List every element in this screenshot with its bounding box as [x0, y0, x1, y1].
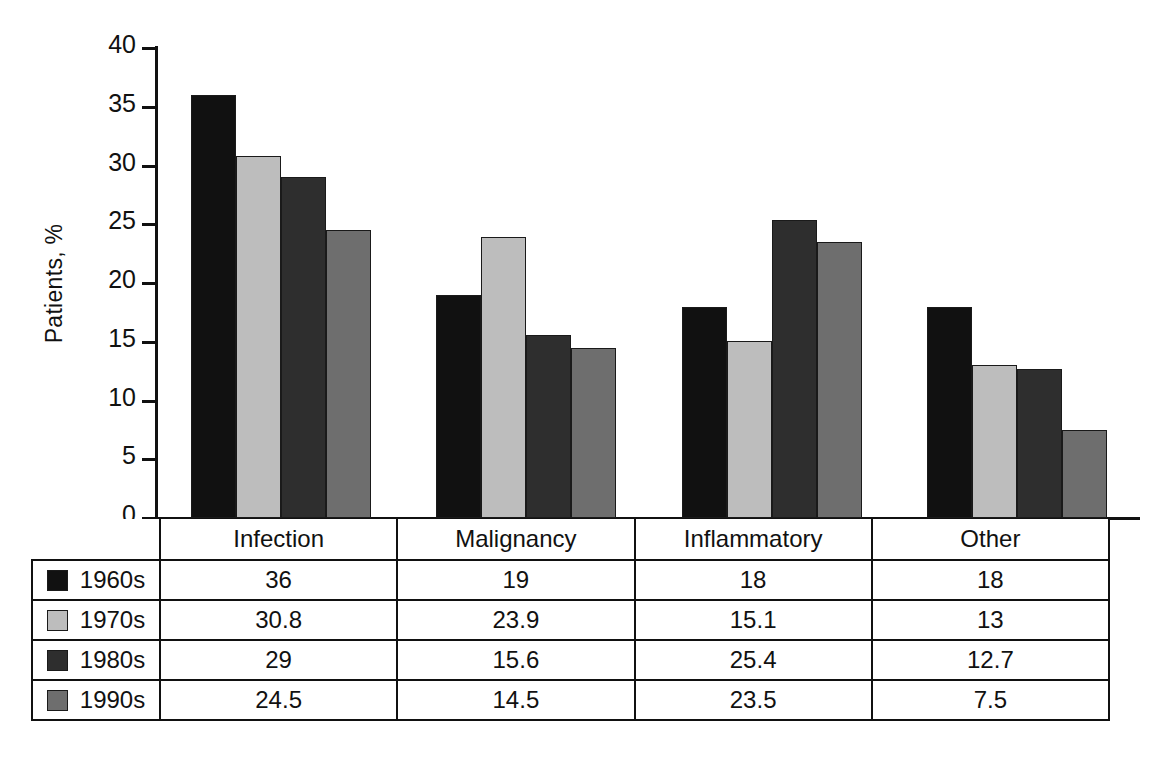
- table-cell: 19: [397, 560, 634, 600]
- y-axis-tick-label: 40: [108, 32, 136, 57]
- bar: [1017, 369, 1062, 518]
- table-row: 1960s36191818: [32, 560, 1109, 600]
- table-column-header: Other: [872, 519, 1109, 560]
- legend-swatch-icon: [47, 610, 68, 631]
- y-axis-tick-label: 10: [108, 385, 136, 410]
- legend-swatch-icon: [47, 650, 68, 671]
- legend-label: 1980s: [80, 646, 145, 674]
- y-axis-title-wrapper: Patients, %: [38, 48, 72, 518]
- y-axis-title: Patients, %: [42, 223, 69, 343]
- table-column-header: Infection: [160, 519, 397, 560]
- table-row: 1980s2915.625.412.7: [32, 640, 1109, 680]
- y-axis-tick-label: 30: [108, 150, 136, 175]
- legend-cell: 1980s: [32, 640, 160, 680]
- legend-label: 1960s: [80, 566, 145, 594]
- bar: [817, 242, 862, 518]
- table-cell: 23.5: [635, 680, 872, 720]
- bar: [772, 220, 817, 518]
- y-axis-tick-mark: [142, 400, 155, 403]
- legend-swatch-icon: [47, 570, 68, 591]
- y-axis-tick-mark: [142, 341, 155, 344]
- bar: [927, 307, 972, 519]
- data-table: InfectionMalignancyInflammatoryOther1960…: [31, 519, 1110, 721]
- bar: [236, 156, 281, 518]
- legend-cell: 1990s: [32, 680, 160, 720]
- table-cell: 23.9: [397, 600, 634, 640]
- bar: [727, 341, 772, 518]
- legend-cell: 1970s: [32, 600, 160, 640]
- table-cell: 30.8: [160, 600, 397, 640]
- plot-area: [158, 48, 1140, 518]
- chart-figure: Patients, % 4035302520151050 InfectionMa…: [0, 0, 1168, 762]
- table-cell: 24.5: [160, 680, 397, 720]
- bar: [481, 237, 526, 518]
- y-axis-tick-mark: [142, 282, 155, 285]
- y-axis-tick-label: 5: [122, 443, 136, 468]
- y-axis-tick-mark: [142, 223, 155, 226]
- bar: [281, 177, 326, 518]
- y-axis-tick-mark: [142, 47, 155, 50]
- table-cell: 18: [872, 560, 1109, 600]
- legend-label: 1990s: [80, 686, 145, 714]
- bar: [526, 335, 571, 518]
- y-axis-tick-mark: [142, 106, 155, 109]
- table-cell: 15.6: [397, 640, 634, 680]
- bar: [682, 307, 727, 519]
- legend-cell: 1960s: [32, 560, 160, 600]
- bar: [436, 295, 481, 518]
- table-cell: 14.5: [397, 680, 634, 720]
- bar: [571, 348, 616, 518]
- table-cell: 18: [635, 560, 872, 600]
- table-header-row: InfectionMalignancyInflammatoryOther: [32, 519, 1109, 560]
- table-row: 1970s30.823.915.113: [32, 600, 1109, 640]
- legend-label: 1970s: [80, 606, 145, 634]
- y-axis-tick-label: 20: [108, 267, 136, 292]
- bar: [1062, 430, 1107, 518]
- table-cell: 29: [160, 640, 397, 680]
- table-column-header: Inflammatory: [635, 519, 872, 560]
- y-axis-tick-mark: [142, 458, 155, 461]
- bar: [191, 95, 236, 518]
- table-column-header: Malignancy: [397, 519, 634, 560]
- table-cell: 25.4: [635, 640, 872, 680]
- y-axis-tick-label: 35: [108, 91, 136, 116]
- table-cell: 12.7: [872, 640, 1109, 680]
- bar: [972, 365, 1017, 518]
- legend-swatch-icon: [47, 690, 68, 711]
- bar: [326, 230, 371, 518]
- y-axis-tick-label: 25: [108, 208, 136, 233]
- y-axis-tick-label: 15: [108, 326, 136, 351]
- table-corner-cell: [32, 519, 160, 560]
- table-cell: 13: [872, 600, 1109, 640]
- table-cell: 7.5: [872, 680, 1109, 720]
- table-cell: 15.1: [635, 600, 872, 640]
- table-cell: 36: [160, 560, 397, 600]
- table-row: 1990s24.514.523.57.5: [32, 680, 1109, 720]
- y-axis-tick-mark: [142, 165, 155, 168]
